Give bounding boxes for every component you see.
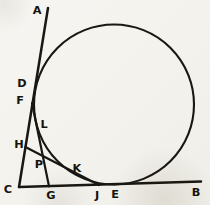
point-label-F: F bbox=[16, 94, 24, 107]
figure-canvas: ABCDFLHPKGJE bbox=[0, 0, 210, 205]
point-label-C: C bbox=[4, 183, 12, 196]
point-label-E: E bbox=[111, 188, 119, 201]
point-label-B: B bbox=[192, 186, 201, 199]
point-label-A: A bbox=[33, 4, 42, 17]
geometry-diagram: ABCDFLHPKGJE bbox=[0, 0, 210, 205]
point-label-P: P bbox=[35, 158, 43, 171]
tangent-circle bbox=[34, 25, 194, 185]
point-label-D: D bbox=[17, 77, 26, 90]
point-label-K: K bbox=[73, 162, 83, 175]
line-CB bbox=[19, 182, 201, 188]
point-label-L: L bbox=[40, 118, 47, 131]
point-label-H: H bbox=[14, 138, 23, 151]
point-label-G: G bbox=[46, 189, 55, 202]
line-FG bbox=[32, 103, 49, 186]
point-label-J: J bbox=[94, 189, 99, 202]
